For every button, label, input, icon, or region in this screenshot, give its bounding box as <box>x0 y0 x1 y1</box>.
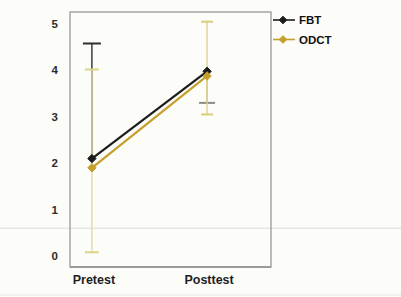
plot-border <box>70 12 271 267</box>
y-tick-label: 1 <box>52 204 59 216</box>
legend-row-fbt: FBT <box>273 14 321 26</box>
chart-svg: 012345 PretestPosttest FBTODCT <box>0 0 401 297</box>
series-line-odct <box>92 76 207 168</box>
axes-box <box>70 12 271 267</box>
y-tick-label: 5 <box>52 18 59 30</box>
y-tick-label: 3 <box>52 111 58 123</box>
series-line-fbt <box>92 71 207 158</box>
figure-root: 012345 PretestPosttest FBTODCT <box>0 0 401 297</box>
legend-row-odct: ODCT <box>273 34 332 46</box>
y-tick-label: 0 <box>52 250 58 262</box>
legend-marker-odct <box>279 36 287 44</box>
y-tick-label: 2 <box>52 157 58 169</box>
x-category-label: Pretest <box>73 273 116 287</box>
legend: FBTODCT <box>273 14 332 46</box>
legend-label: FBT <box>299 14 321 26</box>
series-lines <box>92 71 207 168</box>
legend-marker-fbt <box>279 16 287 24</box>
y-axis-tick-labels: 012345 <box>52 18 59 262</box>
y-tick-label: 4 <box>52 64 59 76</box>
error-bars <box>83 22 215 253</box>
x-category-label: Posttest <box>184 273 234 287</box>
legend-label: ODCT <box>299 34 332 46</box>
x-axis-category-labels: PretestPosttest <box>73 273 235 287</box>
